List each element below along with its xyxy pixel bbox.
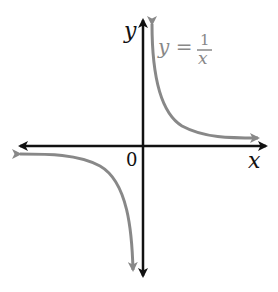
y-axis-label: y xyxy=(123,18,137,43)
reciprocal-graph: y x 0 y = 1 x xyxy=(0,0,278,292)
equation-numerator: 1 xyxy=(200,31,210,49)
equation-denominator: x xyxy=(198,48,208,68)
origin-label: 0 xyxy=(126,149,137,170)
curve-branch-third-quadrant xyxy=(20,154,133,270)
equation-lhs: y = xyxy=(157,35,192,59)
x-axis-label: x xyxy=(248,148,261,173)
